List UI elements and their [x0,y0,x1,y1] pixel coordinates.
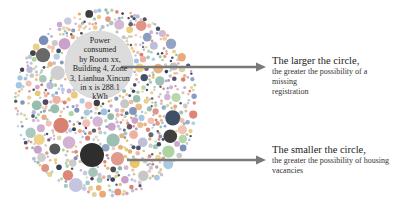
room-bubble[interactable] [23,114,26,117]
room-bubble[interactable] [158,115,161,118]
room-bubble[interactable] [153,89,155,91]
room-bubble[interactable] [28,90,30,92]
room-bubble[interactable] [164,125,167,128]
room-bubble[interactable] [97,166,100,169]
room-bubble[interactable] [105,16,111,22]
room-bubble[interactable] [143,33,152,42]
room-bubble[interactable] [64,154,67,157]
room-bubble[interactable] [78,12,81,15]
room-bubble[interactable] [118,166,122,170]
room-bubble[interactable] [85,102,92,109]
room-bubble[interactable] [37,153,46,162]
room-bubble[interactable] [163,47,166,50]
room-bubble[interactable] [87,190,90,193]
room-bubble[interactable] [66,32,68,34]
room-bubble[interactable] [107,113,114,120]
room-bubble[interactable] [152,126,154,128]
room-bubble[interactable] [148,144,152,148]
room-bubble[interactable] [44,94,48,98]
room-bubble[interactable] [120,108,124,112]
room-bubble[interactable] [37,113,40,116]
room-bubble[interactable] [141,90,143,92]
room-bubble[interactable] [25,118,27,120]
large-dark-circle[interactable] [80,143,104,167]
room-bubble[interactable] [33,143,36,146]
room-bubble[interactable] [193,84,196,87]
room-bubble[interactable] [88,131,92,135]
room-bubble[interactable] [135,19,137,21]
room-bubble[interactable] [122,193,125,196]
room-bubble[interactable] [115,183,118,186]
room-bubble[interactable] [125,148,129,152]
room-bubble[interactable] [173,72,175,74]
room-bubble[interactable] [192,89,195,92]
room-bubble[interactable] [27,140,30,143]
room-bubble[interactable] [16,82,22,88]
room-bubble[interactable] [125,111,129,115]
room-bubble[interactable] [99,28,101,30]
room-bubble[interactable] [101,109,108,116]
room-bubble[interactable] [48,109,51,112]
room-bubble[interactable] [121,17,123,19]
room-bubble[interactable] [106,167,109,170]
room-bubble[interactable] [109,104,113,108]
room-bubble[interactable] [159,55,162,58]
room-bubble[interactable] [153,86,155,88]
room-bubble[interactable] [20,88,23,91]
room-bubble[interactable] [148,137,151,140]
room-bubble[interactable] [163,55,166,58]
room-bubble[interactable] [51,170,54,173]
room-bubble[interactable] [188,129,192,133]
room-bubble[interactable] [76,155,78,157]
room-bubble[interactable] [96,185,102,191]
room-bubble[interactable] [84,132,87,135]
room-bubble[interactable] [49,143,60,154]
room-bubble[interactable] [60,110,63,113]
room-bubble[interactable] [51,66,65,80]
room-bubble[interactable] [151,39,154,42]
room-bubble[interactable] [83,27,86,30]
room-bubble[interactable] [130,20,132,22]
room-bubble[interactable] [111,194,115,198]
room-bubble[interactable] [78,24,82,28]
room-bubble[interactable] [134,180,137,183]
room-bubble[interactable] [79,141,82,144]
room-bubble[interactable] [20,68,24,72]
room-bubble[interactable] [153,108,159,114]
room-bubble[interactable] [24,77,28,81]
room-bubble[interactable] [176,59,178,61]
room-bubble[interactable] [98,112,101,115]
room-bubble[interactable] [107,175,111,179]
room-bubble[interactable] [26,61,28,63]
room-bubble[interactable] [165,50,167,52]
room-bubble[interactable] [99,143,102,146]
room-bubble[interactable] [183,86,186,89]
room-bubble[interactable] [106,24,109,27]
room-bubble[interactable] [46,172,48,174]
room-bubble[interactable] [82,130,85,133]
room-bubble[interactable] [68,128,72,132]
room-bubble[interactable] [153,123,156,126]
room-bubble[interactable] [166,53,168,55]
room-bubble[interactable] [129,185,134,190]
room-bubble[interactable] [98,127,101,130]
room-bubble[interactable] [25,146,28,149]
room-bubble[interactable] [180,145,187,152]
room-bubble[interactable] [73,123,76,126]
room-bubble[interactable] [74,132,76,134]
room-bubble[interactable] [17,94,20,97]
room-bubble[interactable] [118,127,121,130]
room-bubble[interactable] [109,189,112,192]
room-bubble[interactable] [33,44,40,51]
room-bubble[interactable] [35,85,40,90]
room-bubble[interactable] [110,9,113,12]
room-bubble[interactable] [176,153,182,159]
room-bubble[interactable] [146,55,150,59]
room-bubble[interactable] [126,139,129,142]
room-bubble[interactable] [39,75,47,83]
room-bubble[interactable] [171,57,174,60]
room-bubble[interactable] [171,93,180,102]
room-bubble[interactable] [188,90,191,93]
room-bubble[interactable] [126,119,128,121]
room-bubble[interactable] [93,116,103,126]
